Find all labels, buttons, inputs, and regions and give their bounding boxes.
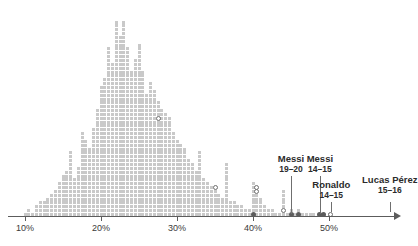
dot	[172, 186, 175, 189]
dot	[138, 175, 141, 178]
dot	[119, 101, 122, 104]
dot	[138, 90, 141, 93]
dot	[111, 205, 114, 208]
dot	[141, 136, 144, 139]
dot	[130, 163, 133, 166]
dot	[179, 144, 182, 147]
dot	[130, 132, 133, 135]
dot	[115, 55, 118, 58]
dot	[126, 201, 129, 204]
dot	[96, 167, 99, 170]
dot	[145, 136, 148, 139]
dot	[221, 198, 224, 201]
dot	[195, 175, 198, 178]
dot	[164, 148, 167, 151]
dot	[138, 209, 141, 212]
dot	[65, 186, 68, 189]
dot	[145, 109, 148, 112]
dot	[107, 98, 110, 101]
dot	[50, 209, 53, 212]
dot	[130, 186, 133, 189]
dot	[164, 132, 167, 135]
dot	[187, 159, 190, 162]
dot	[27, 209, 30, 212]
dot	[119, 105, 122, 108]
dot	[111, 113, 114, 116]
dot	[126, 159, 129, 162]
dot	[122, 178, 125, 181]
dot	[191, 198, 194, 201]
dot	[168, 144, 171, 147]
dot	[130, 124, 133, 127]
dot	[119, 159, 122, 162]
dot	[233, 205, 236, 208]
dot	[65, 198, 68, 201]
dot	[183, 194, 186, 197]
dot	[130, 105, 133, 108]
dot	[134, 82, 137, 85]
dot	[73, 205, 76, 208]
dot	[157, 194, 160, 197]
dot	[145, 209, 148, 212]
dot	[179, 163, 182, 166]
dot	[111, 151, 114, 154]
dot	[100, 178, 103, 181]
dot	[145, 128, 148, 131]
dot	[103, 148, 106, 151]
dot	[259, 205, 262, 208]
dot	[164, 113, 167, 116]
dot	[115, 113, 118, 116]
dot	[217, 209, 220, 212]
dot	[179, 159, 182, 162]
dot	[138, 86, 141, 89]
dot	[240, 205, 243, 208]
dot	[126, 148, 129, 151]
dot	[149, 167, 152, 170]
dot	[115, 159, 118, 162]
dot	[138, 105, 141, 108]
dot	[119, 55, 122, 58]
dot	[92, 171, 95, 174]
dot	[153, 117, 156, 120]
dot	[221, 205, 224, 208]
dot	[149, 155, 152, 158]
dot	[217, 201, 220, 204]
dot	[191, 190, 194, 193]
dot	[153, 209, 156, 212]
dot	[134, 155, 137, 158]
dot	[149, 209, 152, 212]
dot	[138, 159, 141, 162]
dot	[141, 117, 144, 120]
dot	[134, 67, 137, 70]
dot	[141, 94, 144, 97]
dot	[187, 198, 190, 201]
dot	[69, 163, 72, 166]
dot	[160, 205, 163, 208]
dot	[214, 198, 217, 201]
dot	[100, 163, 103, 166]
dot	[92, 148, 95, 151]
dot	[259, 201, 262, 204]
dot	[168, 148, 171, 151]
dot	[172, 163, 175, 166]
dot	[141, 90, 144, 93]
dot	[81, 140, 84, 143]
dot	[122, 82, 125, 85]
dot	[225, 205, 228, 208]
dot	[115, 167, 118, 170]
dot	[119, 186, 122, 189]
dot	[130, 90, 133, 93]
dot	[115, 132, 118, 135]
dot	[157, 209, 160, 212]
dot	[141, 74, 144, 77]
dot	[77, 182, 80, 185]
dot	[107, 128, 110, 131]
dot	[88, 201, 91, 204]
dot	[141, 128, 144, 131]
dot	[145, 167, 148, 170]
dot	[134, 151, 137, 154]
dot	[107, 201, 110, 204]
dot	[92, 163, 95, 166]
dot	[145, 198, 148, 201]
dot	[168, 124, 171, 127]
